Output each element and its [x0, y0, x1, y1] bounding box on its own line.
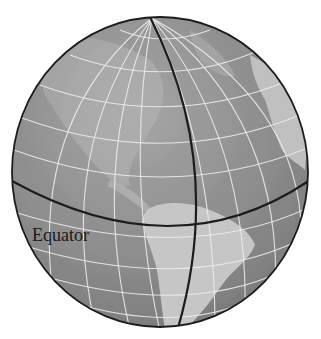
- globe-diagram: Equator: [0, 0, 321, 339]
- globe-svg: [0, 0, 321, 339]
- equator-label: Equator: [32, 225, 89, 246]
